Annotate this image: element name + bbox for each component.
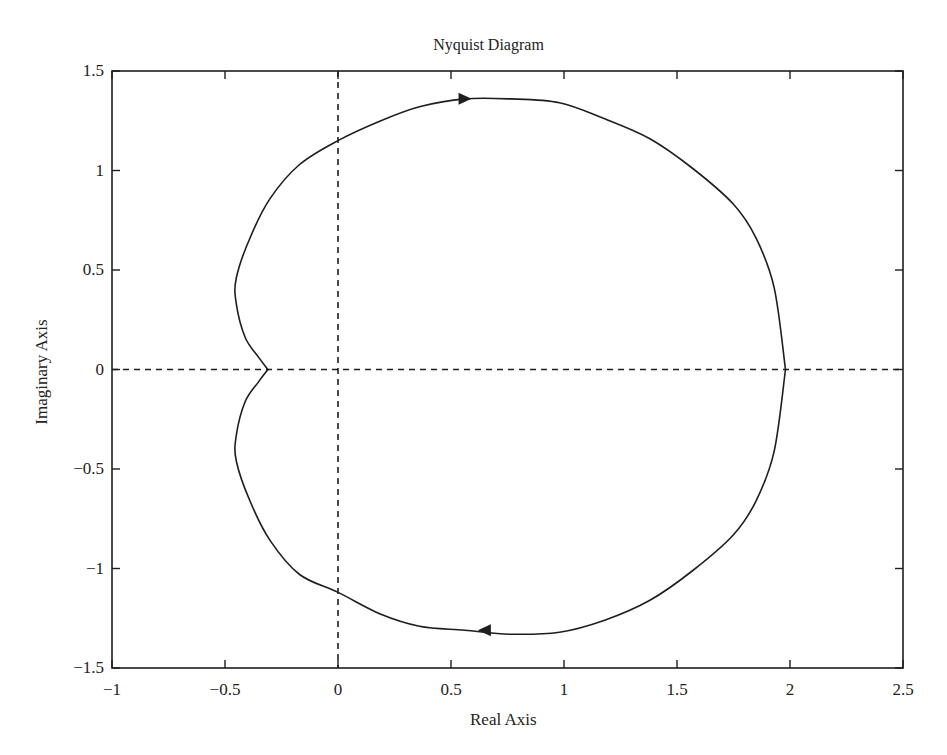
arrow-right-icon [459, 93, 472, 105]
x-tick-label: 1.5 [666, 680, 687, 700]
y-tick-label: −1 [86, 559, 104, 579]
curve-lower-half [235, 370, 786, 635]
x-tick-label: −0.5 [210, 680, 241, 700]
y-tick-label: 0.5 [83, 260, 104, 280]
nyquist-curve [235, 98, 786, 634]
x-tick-label: 0.5 [440, 680, 461, 700]
curve-upper-half [235, 98, 786, 369]
y-tick-label: −1.5 [73, 658, 104, 678]
y-tick-label: 1 [96, 161, 105, 181]
x-tick-label: 2.5 [892, 680, 913, 700]
y-tick-label: 1.5 [83, 61, 104, 81]
x-tick-label: 2 [786, 680, 795, 700]
x-axis-label: Real Axis [470, 710, 537, 730]
y-tick-label: 0 [96, 360, 105, 380]
x-tick-label: 1 [560, 680, 569, 700]
y-axis-label: Imaginary Axis [32, 319, 52, 424]
x-tick-label: 0 [334, 680, 343, 700]
nyquist-plot [0, 0, 947, 755]
reference-lines [112, 71, 903, 668]
arrow-left-icon [478, 624, 491, 636]
y-tick-label: −0.5 [73, 459, 104, 479]
direction-arrows [459, 93, 491, 636]
x-tick-label: −1 [103, 680, 121, 700]
